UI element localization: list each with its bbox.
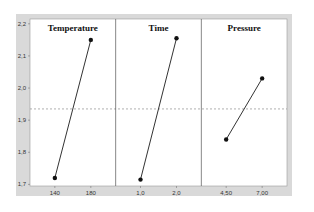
panel-title-time: Time	[149, 23, 169, 33]
y-tick-label: 1,9	[18, 117, 27, 123]
x-tick-label: 140	[50, 190, 61, 196]
data-point	[260, 76, 264, 80]
data-point	[138, 177, 142, 181]
data-point	[174, 36, 178, 40]
x-tick-label: 7,00	[256, 190, 268, 196]
y-tick-label: 2,1	[18, 53, 27, 59]
x-tick-label: 4,50	[220, 190, 232, 196]
panel-title-temperature: Temperature	[48, 23, 98, 33]
panel-title-pressure: Pressure	[228, 23, 261, 33]
y-tick-label: 1,7	[18, 181, 27, 187]
x-tick-label: 180	[86, 190, 97, 196]
main-effects-plot: 1,71,81,92,02,12,2Temperature140180Time1…	[0, 0, 314, 212]
data-point	[224, 137, 228, 141]
y-tick-label: 1,8	[18, 149, 27, 155]
y-tick-label: 2,2	[18, 21, 27, 27]
x-tick-label: 1,0	[136, 190, 145, 196]
x-tick-label: 2,0	[172, 190, 181, 196]
y-tick-label: 2,0	[18, 85, 27, 91]
data-point	[89, 38, 93, 42]
data-point	[53, 176, 57, 180]
